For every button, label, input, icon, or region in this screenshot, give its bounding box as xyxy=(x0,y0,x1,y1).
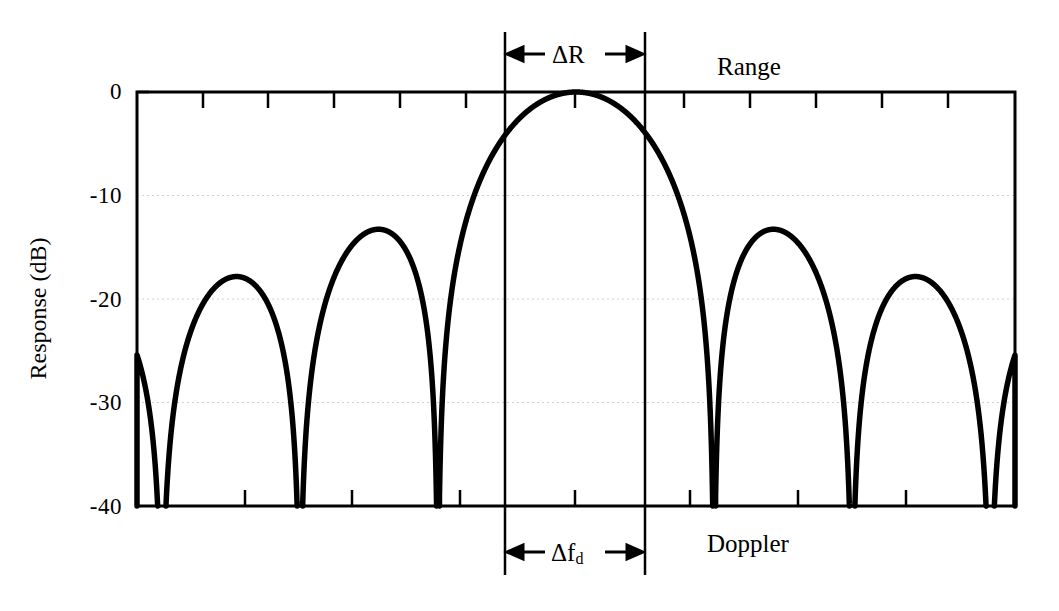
delta-fd-subscript: d xyxy=(575,550,583,567)
delta-fd-label: Δfd xyxy=(551,540,583,567)
delta-fd-main: Δf xyxy=(551,539,575,566)
y-tick-label-minus30: -30 xyxy=(60,391,122,414)
grid-lines xyxy=(137,196,1015,403)
radar-ambiguity-response-figure: 0 -10 -20 -30 -40 Response (dB) ΔR Δfd R… xyxy=(0,0,1059,611)
delta-r-label: ΔR xyxy=(552,42,585,67)
doppler-axis-label: Doppler xyxy=(707,530,789,558)
y-axis-title: Response (dB) xyxy=(25,179,52,439)
bottom-axis-ticks xyxy=(245,490,906,506)
range-axis-label: Range xyxy=(717,53,781,81)
y-tick-label-minus20: -20 xyxy=(60,288,122,311)
y-tick-label-0: 0 xyxy=(60,80,122,103)
y-tick-label-minus10: -10 xyxy=(60,184,122,207)
y-tick-label-minus40: -40 xyxy=(60,495,122,518)
chart-canvas xyxy=(0,0,1059,611)
